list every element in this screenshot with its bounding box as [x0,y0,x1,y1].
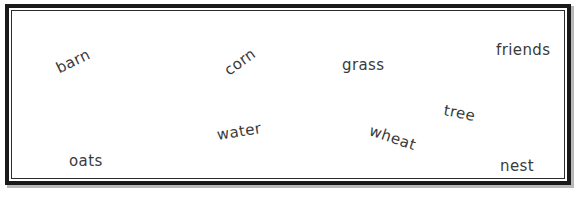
scattered-word-list: barncorngrassfriendstreewaterwheatoatsne… [12,11,564,178]
word-friends: friends [496,41,551,59]
frame-shadow-bottom [7,185,573,188]
word-corn: corn [221,44,259,79]
word-tree: tree [442,101,477,125]
word-oats: oats [69,152,103,170]
word-wheat: wheat [367,121,418,154]
document-frame-outer-rule: barncorngrassfriendstreewaterwheatoatsne… [5,4,571,185]
document-frame-gap: barncorngrassfriendstreewaterwheatoatsne… [9,8,567,181]
word-barn: barn [53,45,93,77]
frame-shadow-right [571,6,574,188]
document-frame-inner-rule: barncorngrassfriendstreewaterwheatoatsne… [11,10,565,179]
word-field-canvas: barncorngrassfriendstreewaterwheatoatsne… [0,0,582,198]
word-water: water [216,119,263,144]
word-grass: grass [342,56,385,74]
word-nest: nest [500,157,534,175]
